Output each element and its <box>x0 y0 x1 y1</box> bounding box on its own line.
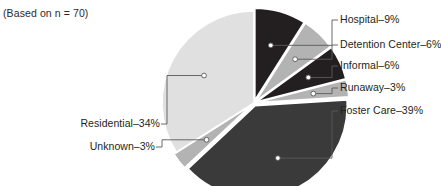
leader-dot <box>204 137 209 142</box>
leader-dot <box>268 43 273 48</box>
leader-dot <box>202 73 207 78</box>
slice-label-foster-care: Foster Care–39% <box>340 104 423 116</box>
slice-label-residential: Residential–34% <box>0 117 160 129</box>
slice-label-hospital: Hospital–9% <box>340 13 400 25</box>
slice-label-informal: Informal–6% <box>340 59 400 71</box>
sample-size-note: (Based on n = 70) <box>3 7 88 19</box>
slice-label-unknown: Unknown–3% <box>0 140 155 152</box>
leader-dot <box>293 57 298 62</box>
pie-slices-group <box>162 8 349 186</box>
leader-dot <box>306 75 311 80</box>
leader-dot <box>311 91 316 96</box>
slice-label-runaway: Runaway–3% <box>340 81 405 93</box>
slice-label-detention-center: Detention Center–6% <box>340 38 441 50</box>
leader-dot <box>275 156 280 161</box>
